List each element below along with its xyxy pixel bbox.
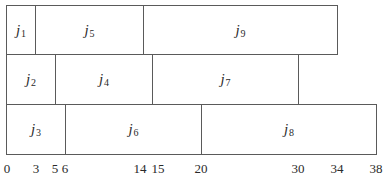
tick-15: 15 bbox=[152, 161, 165, 177]
job-label: j8 bbox=[284, 121, 294, 138]
tick-30: 30 bbox=[292, 161, 305, 177]
job-j8: j8 bbox=[201, 104, 377, 155]
job-j3: j3 bbox=[6, 104, 66, 155]
tick-34: 34 bbox=[331, 161, 344, 177]
tick-0: 0 bbox=[4, 161, 11, 177]
job-label: j7 bbox=[220, 71, 230, 88]
job-j5: j5 bbox=[35, 5, 144, 55]
job-label: j2 bbox=[26, 71, 36, 88]
job-j6: j6 bbox=[65, 104, 202, 155]
tick-14: 14 bbox=[134, 161, 147, 177]
job-label: j3 bbox=[31, 121, 41, 138]
tick-20: 20 bbox=[195, 161, 208, 177]
job-label: j1 bbox=[16, 22, 26, 39]
tick-38: 38 bbox=[370, 161, 383, 177]
job-j7: j7 bbox=[152, 54, 299, 105]
tick-5: 5 bbox=[52, 161, 59, 177]
job-label: j9 bbox=[235, 22, 245, 39]
job-label: j4 bbox=[99, 71, 109, 88]
job-j2: j2 bbox=[6, 54, 56, 105]
job-j1: j1 bbox=[6, 5, 36, 55]
job-j9: j9 bbox=[143, 5, 338, 55]
tick-6: 6 bbox=[62, 161, 69, 177]
job-label: j5 bbox=[84, 22, 94, 39]
job-j4: j4 bbox=[55, 54, 153, 105]
tick-3: 3 bbox=[33, 161, 40, 177]
job-label: j6 bbox=[128, 121, 138, 138]
